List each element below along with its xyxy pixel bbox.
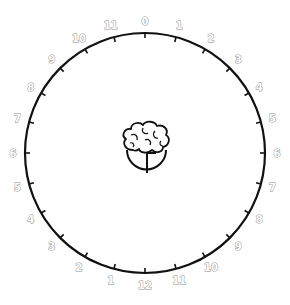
- dial-tick: [226, 68, 230, 72]
- dial-tick: [60, 234, 64, 238]
- dial-label: 11: [172, 275, 186, 286]
- dial-tick: [85, 49, 88, 53]
- dial-label: 2: [208, 33, 215, 44]
- brain-clock-icon: [124, 122, 169, 173]
- dial-tick: [41, 93, 45, 96]
- dial-label: 8: [27, 82, 34, 93]
- circular-dial: 01234567891011121234567891011: [0, 0, 290, 305]
- dial-label: 12: [138, 280, 152, 291]
- dial-label: 7: [269, 182, 276, 193]
- brain-icon: [124, 122, 169, 153]
- dial-label: 10: [204, 262, 218, 273]
- dial-tick: [245, 211, 249, 214]
- dial-label: 6: [10, 148, 17, 159]
- dial-label: 1: [107, 275, 114, 286]
- dial-tick: [226, 234, 230, 238]
- dial-label: 9: [48, 54, 55, 65]
- dial-label: 3: [48, 241, 55, 252]
- dial-label: 10: [72, 33, 86, 44]
- dial-label: 6: [274, 148, 281, 159]
- dial-tick: [60, 68, 64, 72]
- dial-label: 0: [142, 16, 149, 27]
- dial-label: 5: [14, 182, 21, 193]
- dial-label: 4: [27, 214, 34, 225]
- dial-label: 2: [76, 262, 83, 273]
- dial-tick: [245, 93, 249, 96]
- dial-label: 8: [256, 214, 263, 225]
- dial-label: 4: [256, 82, 263, 93]
- dial-tick: [41, 211, 45, 214]
- dial-label: 9: [235, 241, 242, 252]
- clock-icon: [127, 150, 166, 173]
- dial-label: 11: [104, 20, 118, 31]
- dial-tick: [203, 253, 206, 257]
- dial-label: 5: [269, 113, 276, 124]
- dial-label: 7: [14, 113, 21, 124]
- dial-tick: [203, 49, 206, 53]
- dial-label: 3: [235, 54, 242, 65]
- dial-label: 1: [176, 20, 183, 31]
- dial-tick: [85, 253, 88, 257]
